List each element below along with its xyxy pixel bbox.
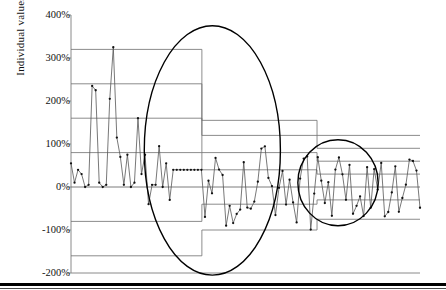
y-tick-200: 200% xyxy=(24,96,70,106)
y-tick-400: 400% xyxy=(24,10,70,20)
figure-bottom-hairline xyxy=(0,288,446,289)
axis-lines xyxy=(71,15,420,273)
y-tick-neg100: -100% xyxy=(24,225,70,235)
figure-bottom-rule xyxy=(0,283,446,286)
y-axis-tick-labels: 400% 300% 200% 100% 0% -100% -200% xyxy=(18,0,70,290)
control-chart-figure: Individual values 400% 300% 200% 100% 0%… xyxy=(0,0,446,290)
series-markers xyxy=(70,46,421,231)
y-tick-300: 300% xyxy=(24,53,70,63)
y-tick-0: 0% xyxy=(24,182,70,192)
series-individual-values xyxy=(71,47,420,229)
control-limit-lines xyxy=(71,49,420,255)
y-tick-100: 100% xyxy=(24,139,70,149)
y-tick-neg200: -200% xyxy=(24,268,70,278)
